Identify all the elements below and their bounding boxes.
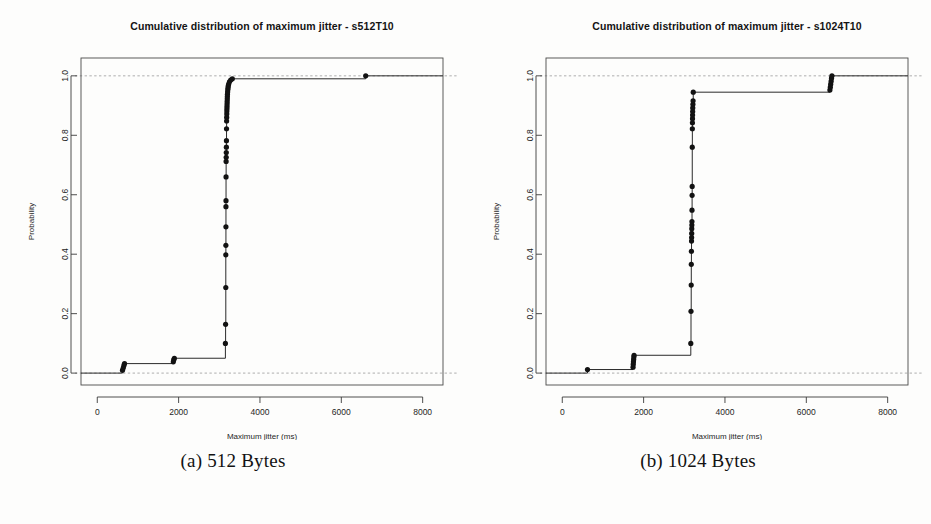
y-tick-label-3: 0.6 xyxy=(60,189,70,201)
cdf-chart-b: Cumulative distribution of maximum jitte… xyxy=(465,0,931,440)
figure-root: Cumulative distribution of maximum jitte… xyxy=(0,0,931,524)
ecdf-point xyxy=(690,145,695,150)
y-tick-label-3: 0.6 xyxy=(525,189,535,201)
y-tick-label-4: 0.8 xyxy=(525,129,535,141)
x-tick-label-3: 6000 xyxy=(332,407,351,417)
ecdf-point xyxy=(691,90,696,95)
cdf-chart-a: Cumulative distribution of maximum jitte… xyxy=(0,0,466,440)
y-tick-label-5: 1.0 xyxy=(60,70,70,82)
plot-b: Cumulative distribution of maximum jitte… xyxy=(465,0,931,440)
plot-title: Cumulative distribution of maximum jitte… xyxy=(592,20,862,32)
ecdf-point xyxy=(689,249,694,254)
ecdf-point xyxy=(224,155,229,160)
figure-panel-b: Cumulative distribution of maximum jitte… xyxy=(465,0,931,524)
y-tick-label-0: 0.0 xyxy=(525,367,535,379)
y-tick-label-0: 0.0 xyxy=(60,367,70,379)
x-tick-label-2: 4000 xyxy=(251,407,270,417)
ecdf-point xyxy=(223,341,228,346)
plot-title: Cumulative distribution of maximum jitte… xyxy=(130,20,394,32)
plot-frame xyxy=(81,58,443,385)
x-tick-label-1: 2000 xyxy=(634,407,653,417)
x-tick-label-4: 8000 xyxy=(413,407,432,417)
ecdf-point xyxy=(224,126,229,131)
ecdf-point xyxy=(223,204,228,209)
ecdf-point xyxy=(689,208,694,213)
ecdf-point xyxy=(223,224,228,229)
ecdf-point xyxy=(223,243,228,248)
ecdf-point xyxy=(690,98,695,103)
y-tick-label-4: 0.8 xyxy=(60,129,70,141)
ecdf-point xyxy=(224,150,229,155)
y-tick-label-2: 0.4 xyxy=(525,248,535,260)
ecdf-point xyxy=(224,138,229,143)
ecdf-point xyxy=(223,285,228,290)
caption-b: (b) 1024 Bytes xyxy=(465,450,931,472)
ecdf-point xyxy=(690,184,695,189)
ecdf-point xyxy=(631,353,636,358)
ecdf-point xyxy=(689,219,694,224)
ecdf-point xyxy=(690,193,695,198)
y-tick-label-1: 0.2 xyxy=(525,307,535,319)
x-axis-title: Maximum jitter (ms) xyxy=(692,432,763,440)
plot-frame xyxy=(546,58,908,385)
y-tick-label-2: 0.4 xyxy=(60,248,70,260)
ecdf-point xyxy=(690,126,695,131)
ecdf-point xyxy=(223,252,228,257)
ecdf-point xyxy=(223,198,228,203)
y-axis-title: Probability xyxy=(492,203,501,240)
ecdf-step-line-0 xyxy=(546,76,908,373)
ecdf-point xyxy=(230,76,235,81)
ecdf-point xyxy=(689,231,694,236)
x-tick-label-0: 0 xyxy=(560,407,565,417)
x-tick-label-2: 4000 xyxy=(716,407,735,417)
x-tick-label-1: 2000 xyxy=(169,407,188,417)
ecdf-point xyxy=(172,356,177,361)
ecdf-point xyxy=(688,309,693,314)
ecdf-point xyxy=(224,145,229,150)
ecdf-step-line-0 xyxy=(81,76,443,373)
ecdf-point xyxy=(122,361,127,366)
plot-a: Cumulative distribution of maximum jitte… xyxy=(0,0,466,440)
ecdf-point xyxy=(689,262,694,267)
ecdf-point xyxy=(688,341,693,346)
y-tick-label-5: 1.0 xyxy=(525,70,535,82)
caption-a: (a) 512 Bytes xyxy=(0,450,466,472)
x-tick-label-0: 0 xyxy=(95,407,100,417)
ecdf-point xyxy=(829,73,834,78)
ecdf-point xyxy=(223,174,228,179)
ecdf-point xyxy=(585,367,590,372)
ecdf-point xyxy=(689,283,694,288)
x-tick-label-4: 8000 xyxy=(878,407,897,417)
x-axis-title: Maximum jitter (ms) xyxy=(227,432,298,440)
ecdf-point xyxy=(363,73,368,78)
ecdf-point xyxy=(223,322,228,327)
figure-panel-a: Cumulative distribution of maximum jitte… xyxy=(0,0,466,524)
y-tick-label-1: 0.2 xyxy=(60,307,70,319)
x-tick-label-3: 6000 xyxy=(797,407,816,417)
y-axis-title: Probability xyxy=(27,203,36,240)
